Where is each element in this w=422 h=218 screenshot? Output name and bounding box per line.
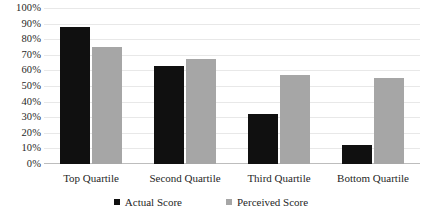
legend-swatch-gray-icon (226, 199, 232, 205)
bar-perceived-top-quartile (92, 47, 122, 164)
plot-area (44, 8, 420, 164)
bar-actual-third-quartile (248, 114, 278, 164)
x-axis-label-third-quartile: Third Quartile (232, 168, 326, 188)
y-axis-tick: 10% (21, 143, 41, 154)
y-axis-tick: 90% (21, 18, 41, 29)
bar-group-third-quartile (232, 8, 326, 164)
x-axis: Top Quartile Second Quartile Third Quart… (44, 168, 420, 188)
y-axis-tick: 50% (21, 81, 41, 92)
bar-actual-second-quartile (154, 66, 184, 164)
legend-item-perceived-score: Perceived Score (226, 197, 308, 208)
y-axis-tick: 60% (21, 65, 41, 76)
y-axis: 100% 90% 80% 70% 60% 50% 40% 30% 20% 10%… (0, 0, 41, 172)
y-axis-tick: 20% (21, 128, 41, 139)
y-axis-tick: 100% (16, 3, 41, 14)
bar-chart: 100% 90% 80% 70% 60% 50% 40% 30% 20% 10%… (0, 0, 422, 218)
y-axis-tick: 80% (21, 34, 41, 45)
legend-label-perceived-score: Perceived Score (237, 197, 308, 208)
bar-actual-top-quartile (60, 27, 90, 164)
y-axis-tick: 70% (21, 50, 41, 61)
bar-actual-bottom-quartile (342, 145, 372, 164)
y-axis-tick: 30% (21, 112, 41, 123)
plot-wrapper: 100% 90% 80% 70% 60% 50% 40% 30% 20% 10%… (0, 0, 422, 172)
legend-swatch-black-icon (114, 199, 120, 205)
y-axis-tick: 0% (27, 159, 41, 170)
chart-legend: Actual Score Perceived Score (0, 192, 422, 212)
x-axis-label-bottom-quartile: Bottom Quartile (326, 168, 420, 188)
y-axis-tick: 40% (21, 96, 41, 107)
x-axis-label-top-quartile: Top Quartile (44, 168, 138, 188)
bar-perceived-third-quartile (280, 75, 310, 164)
legend-label-actual-score: Actual Score (125, 197, 182, 208)
bar-group-bottom-quartile (326, 8, 420, 164)
bar-perceived-bottom-quartile (374, 78, 404, 164)
legend-item-actual-score: Actual Score (114, 197, 182, 208)
bar-group-second-quartile (138, 8, 232, 164)
bar-perceived-second-quartile (186, 59, 216, 164)
x-axis-label-second-quartile: Second Quartile (138, 168, 232, 188)
bar-groups (44, 8, 420, 164)
bar-group-top-quartile (44, 8, 138, 164)
